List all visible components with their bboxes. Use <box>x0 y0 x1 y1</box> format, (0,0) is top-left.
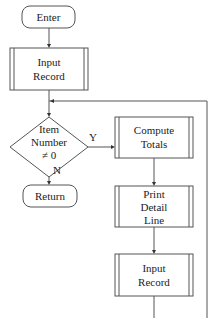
compute-totals-node: Compute Totals <box>115 117 193 158</box>
decision-line-3: ≠ 0 <box>42 149 57 161</box>
input-record-1-line-1: Input <box>37 56 60 68</box>
arrowhead <box>50 99 54 103</box>
arrowhead <box>47 181 51 185</box>
arrowhead <box>152 182 156 186</box>
arrowhead <box>152 250 156 254</box>
decision-line-1: Item <box>39 123 60 135</box>
decision-node: Item Number ≠ 0 <box>10 117 88 177</box>
input-record-1-line-2: Record <box>33 70 65 82</box>
return-node: Return <box>23 185 77 207</box>
yes-label: Y <box>89 131 97 143</box>
no-label: N <box>53 164 61 176</box>
print-detail-line-line-1: Print <box>143 188 164 200</box>
enter-node: Enter <box>22 6 75 28</box>
input-record-2-line-1: Input <box>142 262 165 274</box>
print-detail-line-node: Print Detail Line <box>115 186 193 227</box>
input-record-1-shape <box>10 48 88 90</box>
flowchart: Enter Input Record Item Number ≠ 0 Y N R… <box>0 0 209 321</box>
input-record-2-shape <box>115 254 193 296</box>
decision-line-2: Number <box>31 136 67 148</box>
arrowhead <box>47 44 51 48</box>
arrowhead <box>111 145 115 149</box>
input-record-node-2: Input Record <box>115 254 193 296</box>
print-detail-line-line-3: Line <box>144 214 164 226</box>
compute-totals-line-1: Compute <box>134 124 174 136</box>
input-record-2-line-2: Record <box>138 276 170 288</box>
compute-totals-line-2: Totals <box>141 138 168 150</box>
enter-label: Enter <box>37 11 61 23</box>
input-record-node-1: Input Record <box>10 48 88 90</box>
return-label: Return <box>35 190 65 202</box>
print-detail-line-line-2: Detail <box>141 201 168 213</box>
